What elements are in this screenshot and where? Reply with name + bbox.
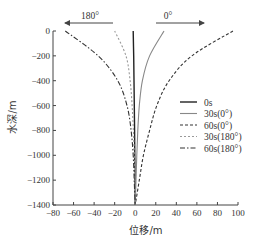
x-tick-label: −40 xyxy=(87,208,102,218)
legend: 0s30s(0°)60s(0°)30s(180°)60s(180°) xyxy=(180,98,242,155)
y-tick-label: −1200 xyxy=(27,175,51,185)
direction-annotations: 180°0° xyxy=(65,11,204,23)
y-tick-label: 0 xyxy=(46,26,51,36)
x-tick-label: 40 xyxy=(172,208,182,218)
y-tick-label: −400 xyxy=(31,76,50,86)
legend-label: 0s xyxy=(204,98,213,108)
series-line xyxy=(115,31,136,205)
x-axis-title: 位移/m xyxy=(129,224,162,236)
x-tick-label: −20 xyxy=(108,208,123,218)
y-tick-label: −200 xyxy=(31,51,50,61)
x-tick-label: −60 xyxy=(67,208,82,218)
direction-label-0: 0° xyxy=(164,11,173,21)
direction-label-180: 180° xyxy=(81,11,99,21)
x-tick-label: 0 xyxy=(133,208,138,218)
legend-label: 60s(180°) xyxy=(204,144,242,155)
x-tick-label: −80 xyxy=(46,208,61,218)
y-axis-title: 水深/m xyxy=(7,100,18,133)
y-tick-label: −800 xyxy=(31,125,50,135)
x-tick-label: 60 xyxy=(192,208,202,218)
legend-label: 30s(180°) xyxy=(204,132,242,143)
depth-displacement-chart: 0−200−400−600−800−1000−1200−1400−80−60−4… xyxy=(0,0,258,241)
series-line xyxy=(65,31,135,205)
legend-label: 60s(0°) xyxy=(204,121,232,132)
series-line xyxy=(133,31,135,205)
y-tick-label: −1000 xyxy=(27,150,51,160)
x-tick-label: 100 xyxy=(231,208,245,218)
y-tick-label: −600 xyxy=(31,101,50,111)
legend-label: 30s(0°) xyxy=(204,109,232,120)
x-tick-label: 80 xyxy=(213,208,223,218)
x-tick-label: 20 xyxy=(151,208,161,218)
